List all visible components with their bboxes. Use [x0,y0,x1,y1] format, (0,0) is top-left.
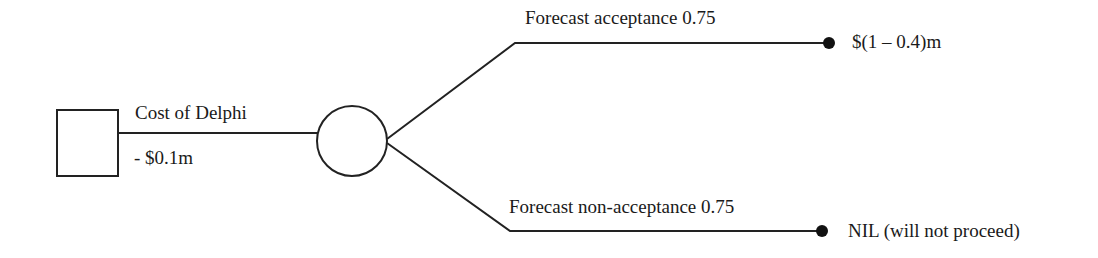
lower-terminal-dot [816,225,828,237]
root-branch-cost: - $0.1m [134,148,193,167]
lower-branch-label: Forecast non-acceptance 0.75 [509,197,734,216]
upper-outcome-payoff: $(1 – 0.4)m [852,32,941,51]
lower-branch-line [387,143,822,231]
decision-tree-diagram: Cost of Delphi - $0.1m Forecast acceptan… [0,0,1098,258]
lower-outcome-payoff: NIL (will not proceed) [848,221,1020,240]
upper-terminal-dot [823,37,835,49]
upper-branch-line [387,43,829,139]
decision-node-square [57,110,118,176]
upper-branch-label: Forecast acceptance 0.75 [525,8,715,27]
chance-node-circle [317,106,387,176]
root-branch-label: Cost of Delphi [135,103,247,122]
